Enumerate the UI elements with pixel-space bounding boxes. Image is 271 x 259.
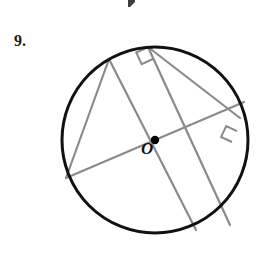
right-angle-marker-group — [136, 47, 237, 142]
circle-geometry-diagram — [0, 0, 271, 259]
right-angle-right-icon — [221, 126, 237, 142]
geometry-figure-container: 9. O — [0, 0, 271, 259]
center-point-label: O — [141, 140, 153, 157]
chord-top-to-bottomright — [148, 47, 230, 225]
problem-number-label: 9. — [14, 33, 26, 49]
